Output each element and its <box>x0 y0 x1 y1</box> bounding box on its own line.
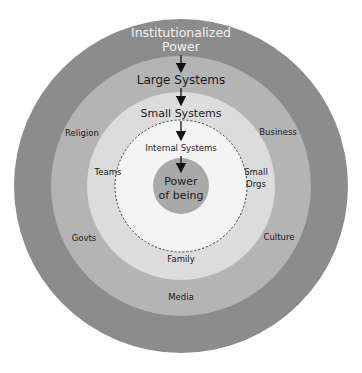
label-orgs: Orgs <box>246 179 266 189</box>
title-internal-systems: Internal Systems <box>145 143 217 153</box>
title-small-systems: Small Systems <box>141 107 222 120</box>
label-govts: Govts <box>72 233 97 243</box>
label-small: Small <box>244 167 268 177</box>
label-family: Family <box>167 254 194 264</box>
label-religion: Religion <box>65 128 99 138</box>
concentric-power-diagram: Institutionalized Power Large Systems Sm… <box>0 0 362 373</box>
label-teams: Teams <box>94 167 122 177</box>
title-power: Power <box>162 39 201 54</box>
label-culture: Culture <box>264 232 295 242</box>
label-business: Business <box>259 127 297 137</box>
core-label-of-being: of being <box>159 189 204 202</box>
title-institutionalized: Institutionalized <box>131 25 231 40</box>
label-media: Media <box>168 292 194 302</box>
core-label-power: Power <box>164 175 198 188</box>
title-large-systems: Large Systems <box>137 73 226 87</box>
